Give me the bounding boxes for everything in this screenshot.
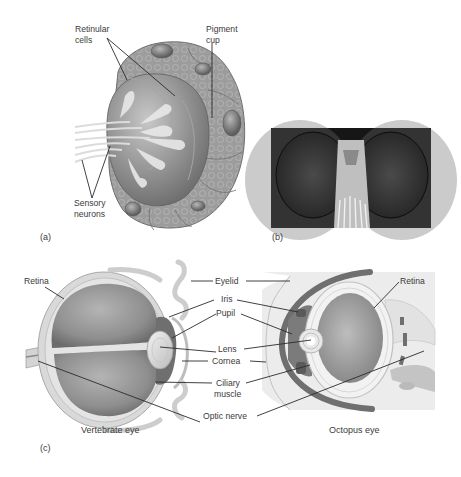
label-retina-octopus: Retina xyxy=(400,276,425,286)
label-optic-nerve: Optic nerve xyxy=(203,411,247,421)
caption-vertebrate-eye: Vertebrate eye xyxy=(81,425,140,435)
label-iris: Iris xyxy=(221,294,232,304)
octopus-eyeball xyxy=(317,293,383,383)
label-retinular-cells-2: cells xyxy=(75,35,92,45)
panel-a-planarian-eyecup: Retinular cells Pigment cup Sensory neur… xyxy=(40,24,245,242)
label-eyelid: Eyelid xyxy=(215,276,239,286)
eye-diagram-figure: Retinular cells Pigment cup Sensory neur… xyxy=(0,0,461,477)
panel-b-compound-eye-photo: (b) xyxy=(245,120,457,242)
label-ciliary-muscle-1: Ciliary xyxy=(216,378,241,388)
label-ciliary-muscle-2: muscle xyxy=(214,389,241,399)
label-sensory-neurons-2: neurons xyxy=(74,209,105,219)
label-lens: Lens xyxy=(218,344,237,354)
label-retina-vertebrate: Retina xyxy=(24,276,49,286)
label-cornea: Cornea xyxy=(212,356,240,366)
panel-b-label: (b) xyxy=(272,232,283,242)
label-sensory-neurons-1: Sensory xyxy=(74,198,106,208)
panel-c-octopus-eye: Eyelid Iris Pupil Lens Cornea Ciliary mu… xyxy=(203,272,435,435)
panel-a-label: (a) xyxy=(40,232,51,242)
panel-c-vertebrate-eye: Retina Vertebrate eye (c) xyxy=(24,262,216,453)
panel-c-label: (c) xyxy=(40,443,51,453)
caption-octopus-eye: Octopus eye xyxy=(329,425,380,435)
label-pigment-cup-2: cup xyxy=(206,35,220,45)
upper-eyelid xyxy=(175,262,187,318)
label-pupil: Pupil xyxy=(216,308,235,318)
lens-vertebrate xyxy=(147,331,173,369)
label-pigment-cup-1: Pigment xyxy=(206,24,238,34)
label-retinular-cells-1: Retinular xyxy=(75,24,110,34)
